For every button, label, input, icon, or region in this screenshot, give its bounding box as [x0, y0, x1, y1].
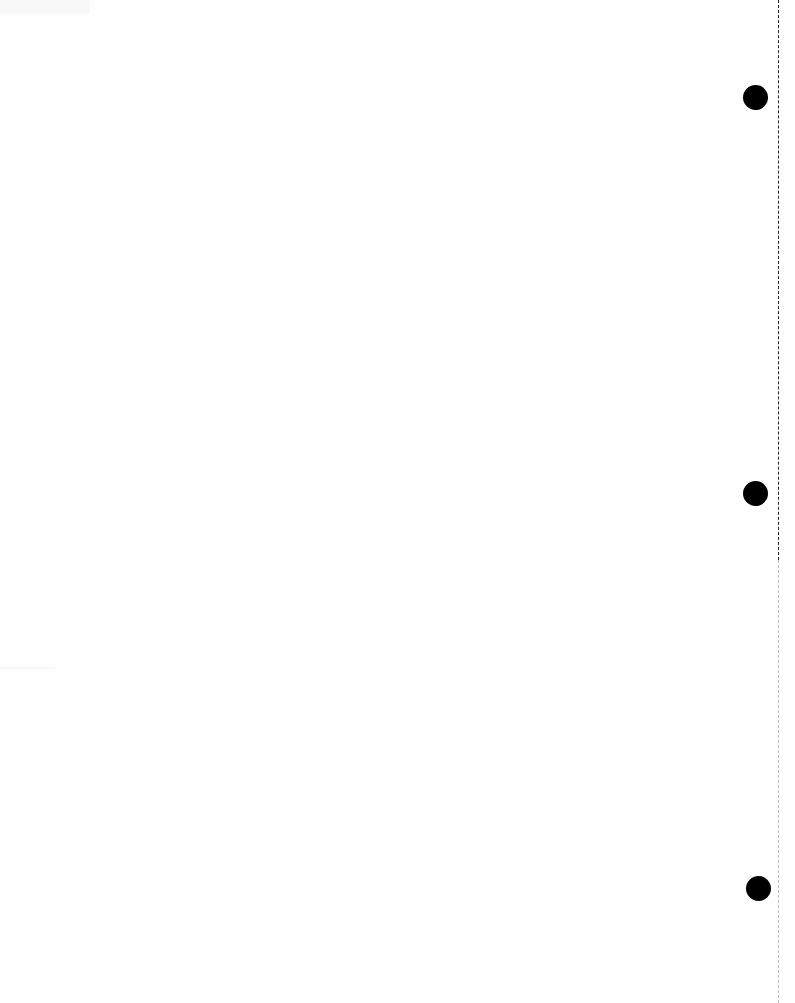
- faint-bleed-through: [0, 667, 55, 669]
- punch-hole-middle: [743, 481, 768, 506]
- dashed-edge-line-faded: [778, 560, 779, 1003]
- scanned-blank-page: [0, 0, 795, 1003]
- punch-hole-top: [743, 85, 768, 110]
- dashed-edge-line: [778, 0, 779, 560]
- faint-bleed-through: [0, 0, 90, 14]
- punch-hole-bottom: [746, 876, 771, 901]
